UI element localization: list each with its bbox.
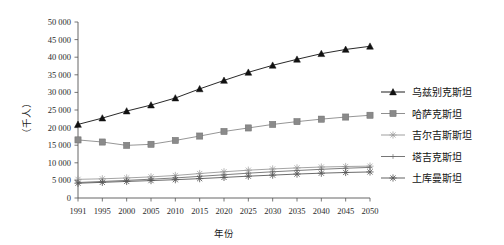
y-tick-label: 30 000	[48, 87, 71, 97]
y-tick-label: 40 000	[48, 52, 71, 62]
data-point-marker	[75, 137, 81, 143]
data-point-marker	[391, 154, 396, 159]
y-tick-label: 35 000	[48, 70, 71, 80]
legend-item[interactable]: 土库曼斯坦	[381, 172, 462, 184]
legend-label: 吉尔吉斯斯坦	[412, 129, 472, 141]
chart-legend: 乌兹别克斯坦哈萨克斯坦吉尔吉斯斯坦塔吉克斯坦土库曼斯坦	[381, 86, 472, 184]
data-point-marker	[367, 112, 373, 118]
data-point-marker	[245, 125, 251, 131]
data-point-marker	[197, 133, 203, 139]
x-tick-label: 2015	[191, 206, 208, 216]
x-axis-tick-labels: 1991199520002005201020152020202520302035…	[70, 206, 379, 216]
y-tick-label: 25 000	[48, 105, 71, 115]
x-tick-label: 2035	[289, 206, 306, 216]
legend-item[interactable]: 乌兹别克斯坦	[381, 86, 472, 98]
data-point-marker	[172, 176, 179, 183]
y-tick-label: 20 000	[48, 123, 71, 133]
data-point-marker	[366, 168, 373, 175]
y-tick-label: 10 000	[48, 158, 71, 168]
x-tick-label: 2000	[118, 206, 135, 216]
data-point-marker	[196, 175, 203, 182]
y-tick-label: 50 000	[48, 17, 71, 27]
y-axis-tick-labels: 05 00010 00015 00020 00025 00030 00035 0…	[48, 17, 71, 203]
y-tick-label: 0	[67, 193, 71, 203]
legend-item[interactable]: 塔吉克斯坦	[381, 151, 462, 163]
y-tick-label: 15 000	[48, 140, 71, 150]
line-chart: 05 00010 00015 00020 00025 00030 00035 0…	[0, 0, 504, 245]
data-point-marker	[293, 170, 300, 177]
x-tick-label: 1995	[94, 206, 111, 216]
data-point-marker	[343, 114, 349, 120]
legend-item[interactable]: 吉尔吉斯斯坦	[381, 129, 472, 141]
data-point-marker	[221, 77, 228, 83]
data-point-marker	[367, 43, 374, 49]
x-tick-label: 2025	[240, 206, 257, 216]
legend-label: 塔吉克斯坦	[412, 151, 462, 163]
data-point-marker	[389, 131, 396, 138]
data-point-marker	[318, 116, 324, 122]
x-tick-label: 2010	[167, 206, 184, 216]
data-point-marker	[124, 142, 130, 148]
x-tick-label: 2005	[143, 206, 160, 216]
data-point-marker	[342, 169, 349, 176]
x-tick-label: 1991	[70, 206, 87, 216]
data-point-marker	[269, 172, 276, 179]
data-point-marker	[270, 121, 276, 127]
data-point-marker	[220, 174, 227, 181]
data-point-marker	[172, 95, 179, 101]
x-tick-label: 2045	[337, 206, 354, 216]
data-point-marker	[221, 128, 227, 134]
legend-item[interactable]: 哈萨克斯坦	[381, 108, 462, 120]
data-point-marker	[99, 179, 106, 186]
legend-label: 乌兹别克斯坦	[412, 86, 472, 98]
y-tick-label: 45 000	[48, 35, 71, 45]
data-point-marker	[390, 110, 396, 116]
chart-figure: 05 00010 00015 00020 00025 00030 00035 0…	[0, 0, 504, 245]
data-point-marker	[318, 170, 325, 177]
series-filled-square	[75, 112, 373, 148]
data-point-marker	[245, 173, 252, 180]
data-point-marker	[123, 178, 130, 185]
x-tick-label: 2040	[313, 206, 330, 216]
legend-label: 哈萨克斯坦	[412, 108, 462, 120]
y-axis-title: （千人）	[21, 98, 32, 138]
legend-label: 土库曼斯坦	[412, 172, 462, 184]
data-point-marker	[74, 180, 81, 187]
y-tick-label: 5 000	[52, 175, 71, 185]
x-tick-label: 2020	[216, 206, 233, 216]
x-tick-label: 2050	[362, 206, 379, 216]
data-point-marker	[148, 141, 154, 147]
series-layer	[74, 43, 373, 187]
x-axis-title: 年份	[214, 228, 234, 239]
x-tick-label: 2030	[264, 206, 281, 216]
data-point-marker	[147, 177, 154, 184]
series-filled-triangle	[75, 43, 374, 127]
data-point-marker	[196, 85, 203, 91]
data-point-marker	[99, 139, 105, 145]
series-line	[78, 46, 370, 124]
data-point-marker	[172, 137, 178, 143]
data-point-marker	[389, 174, 396, 181]
data-point-marker	[294, 119, 300, 125]
